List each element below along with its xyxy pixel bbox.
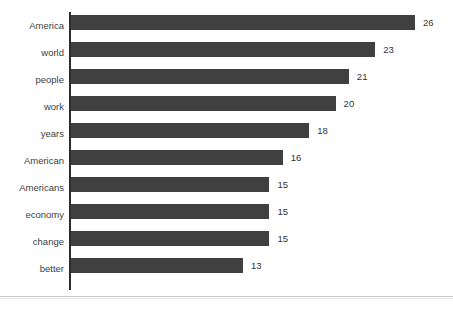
bar: [71, 177, 269, 192]
bar-value-label: 13: [251, 258, 262, 273]
bar-container: 23: [71, 42, 394, 57]
bar-value-label: 15: [277, 177, 288, 192]
category-label: change: [0, 234, 64, 249]
bar-value-label: 15: [277, 231, 288, 246]
bar: [71, 258, 243, 273]
category-label: years: [0, 126, 64, 141]
bar-container: 13: [71, 258, 262, 273]
bar-container: 15: [71, 177, 288, 192]
bar-row: better 13: [0, 255, 453, 282]
bottom-divider-shadow: [0, 298, 453, 299]
bar-value-label: 23: [383, 42, 394, 57]
category-label: economy: [0, 207, 64, 222]
category-label: Americans: [0, 180, 64, 195]
bar: [71, 15, 415, 30]
bar-container: 16: [71, 150, 301, 165]
bar-value-label: 15: [277, 204, 288, 219]
bar-container: 15: [71, 204, 288, 219]
category-label: world: [0, 45, 64, 60]
bar-row: years 18: [0, 120, 453, 147]
bar-chart: America 26 world 23 people 21: [0, 0, 453, 312]
plot-area: America 26 world 23 people 21: [0, 0, 453, 296]
bar-value-label: 20: [344, 96, 355, 111]
bottom-divider: [0, 296, 453, 297]
bar: [71, 150, 283, 165]
category-label: American: [0, 153, 64, 168]
bar-value-label: 16: [291, 150, 302, 165]
category-label: America: [0, 18, 64, 33]
bar-row: change 15: [0, 228, 453, 255]
bar: [71, 123, 309, 138]
bar: [71, 42, 375, 57]
bar-row: America 26: [0, 12, 453, 39]
bar-row: people 21: [0, 66, 453, 93]
bar: [71, 204, 269, 219]
bar: [71, 69, 349, 84]
category-label: work: [0, 99, 64, 114]
bar-container: 21: [71, 69, 367, 84]
bar-container: 26: [71, 15, 434, 30]
bar-row: American 16: [0, 147, 453, 174]
bar-value-label: 18: [317, 123, 328, 138]
bar-row: world 23: [0, 39, 453, 66]
bar-rows: America 26 world 23 people 21: [0, 12, 453, 282]
bar-value-label: 26: [423, 15, 434, 30]
category-label: people: [0, 72, 64, 87]
bar-row: Americans 15: [0, 174, 453, 201]
bar-row: work 20: [0, 93, 453, 120]
bar-row: economy 15: [0, 201, 453, 228]
bar-container: 20: [71, 96, 354, 111]
bar: [71, 231, 269, 246]
category-label: better: [0, 261, 64, 276]
bar-container: 18: [71, 123, 328, 138]
bar-value-label: 21: [357, 69, 368, 84]
bar-container: 15: [71, 231, 288, 246]
bar: [71, 96, 336, 111]
